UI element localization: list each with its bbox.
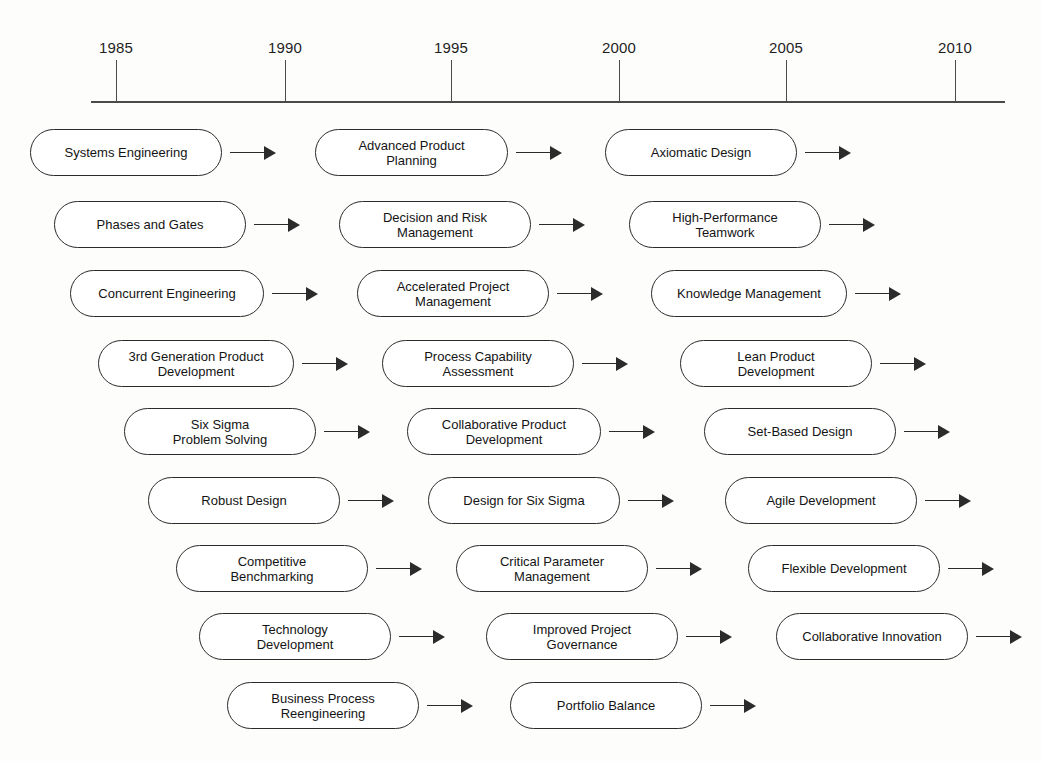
flow-arrow-shaft — [399, 636, 433, 638]
methodology-pill[interactable]: Design for Six Sigma — [428, 477, 620, 524]
flow-arrow-head — [863, 218, 875, 232]
flow-arrow-icon — [656, 562, 702, 576]
flow-arrow-shaft — [557, 293, 591, 295]
flow-arrow-head — [959, 494, 971, 508]
methodology-pill-label: 3rd Generation Product Development — [128, 349, 263, 379]
methodology-pill[interactable]: Critical Parameter Management — [456, 545, 648, 592]
flow-arrow-head — [306, 287, 318, 301]
methodology-pill-label: Robust Design — [201, 493, 286, 508]
methodology-pill[interactable]: Phases and Gates — [54, 201, 246, 248]
methodology-pill[interactable]: Systems Engineering — [30, 129, 222, 176]
flow-arrow-head — [744, 699, 756, 713]
methodology-pill[interactable]: Concurrent Engineering — [70, 270, 264, 317]
methodology-pill-label: Design for Six Sigma — [463, 493, 584, 508]
flow-arrow-head — [889, 287, 901, 301]
methodology-pill[interactable]: Business Process Reengineering — [227, 682, 419, 729]
flow-arrow-icon — [348, 494, 394, 508]
methodology-pill[interactable]: Lean Product Development — [680, 340, 872, 387]
flow-arrow-head — [616, 357, 628, 371]
flow-arrow-icon — [302, 357, 348, 371]
flow-arrow-shaft — [855, 293, 889, 295]
flow-arrow-head — [982, 562, 994, 576]
methodology-pill[interactable]: 3rd Generation Product Development — [98, 340, 294, 387]
methodology-pill[interactable]: Portfolio Balance — [510, 682, 702, 729]
flow-arrow-icon — [855, 287, 901, 301]
axis-tick-1995 — [451, 60, 452, 101]
axis-tick-label: 1995 — [434, 39, 468, 56]
methodology-pill-label: Concurrent Engineering — [98, 286, 235, 301]
methodology-pill[interactable]: Technology Development — [199, 613, 391, 660]
methodology-pill[interactable]: Agile Development — [725, 477, 917, 524]
flow-arrow-icon — [976, 630, 1022, 644]
axis-tick-2010 — [955, 60, 956, 101]
flow-arrow-icon — [254, 218, 300, 232]
flow-arrow-shaft — [348, 500, 382, 502]
flow-arrow-shaft — [880, 363, 914, 365]
flow-arrow-head — [914, 357, 926, 371]
flow-arrow-head — [336, 357, 348, 371]
methodology-pill-label: Knowledge Management — [677, 286, 821, 301]
flow-arrow-head — [690, 562, 702, 576]
methodology-pill[interactable]: Accelerated Project Management — [357, 270, 549, 317]
methodology-pill[interactable]: Set-Based Design — [704, 408, 896, 455]
flow-arrow-shaft — [376, 568, 410, 570]
flow-arrow-icon — [686, 630, 732, 644]
methodology-pill[interactable]: Improved Project Governance — [486, 613, 678, 660]
axis-tick-label: 1985 — [99, 39, 133, 56]
flow-arrow-head — [720, 630, 732, 644]
methodology-pill[interactable]: Collaborative Product Development — [407, 408, 601, 455]
flow-arrow-icon — [427, 699, 473, 713]
flow-arrow-icon — [539, 218, 585, 232]
flow-arrow-shaft — [656, 568, 690, 570]
flow-arrow-icon — [628, 494, 674, 508]
flow-arrow-icon — [399, 630, 445, 644]
timeline-diagram: 198519901995200020052010 Systems Enginee… — [0, 0, 1042, 761]
methodology-pill[interactable]: Robust Design — [148, 477, 340, 524]
methodology-pill[interactable]: Six Sigma Problem Solving — [124, 408, 316, 455]
flow-arrow-head — [550, 146, 562, 160]
axis-tick-label: 2010 — [938, 39, 972, 56]
methodology-pill-label: Collaborative Innovation — [802, 629, 941, 644]
methodology-pill[interactable]: Axiomatic Design — [605, 129, 797, 176]
methodology-pill-label: Advanced Product Planning — [358, 138, 464, 168]
flow-arrow-icon — [272, 287, 318, 301]
flow-arrow-icon — [925, 494, 971, 508]
methodology-pill[interactable]: Knowledge Management — [651, 270, 847, 317]
methodology-pill-label: Set-Based Design — [748, 424, 853, 439]
methodology-pill-label: Competitive Benchmarking — [230, 554, 313, 584]
methodology-pill[interactable]: Process Capability Assessment — [382, 340, 574, 387]
axis-tick-label: 1990 — [268, 39, 302, 56]
methodology-pill-label: Collaborative Product Development — [442, 417, 566, 447]
flow-arrow-head — [643, 425, 655, 439]
methodology-pill[interactable]: Collaborative Innovation — [776, 613, 968, 660]
flow-arrow-head — [433, 630, 445, 644]
methodology-pill[interactable]: Decision and Risk Management — [339, 201, 531, 248]
flow-arrow-head — [288, 218, 300, 232]
flow-arrow-shaft — [272, 293, 306, 295]
methodology-pill-label: Flexible Development — [781, 561, 906, 576]
methodology-pill[interactable]: Competitive Benchmarking — [176, 545, 368, 592]
flow-arrow-shaft — [710, 705, 744, 707]
flow-arrow-icon — [829, 218, 875, 232]
flow-arrow-shaft — [539, 224, 573, 226]
flow-arrow-icon — [710, 699, 756, 713]
flow-arrow-shaft — [427, 705, 461, 707]
flow-arrow-head — [461, 699, 473, 713]
methodology-pill[interactable]: Flexible Development — [748, 545, 940, 592]
methodology-pill[interactable]: Advanced Product Planning — [315, 129, 508, 176]
axis-tick-label: 2005 — [769, 39, 803, 56]
flow-arrow-head — [410, 562, 422, 576]
flow-arrow-shaft — [516, 152, 550, 154]
flow-arrow-head — [662, 494, 674, 508]
flow-arrow-icon — [948, 562, 994, 576]
flow-arrow-icon — [557, 287, 603, 301]
methodology-pill-label: Agile Development — [766, 493, 875, 508]
axis-tick-label: 2000 — [602, 39, 636, 56]
axis-tick-2000 — [619, 60, 620, 101]
flow-arrow-icon — [376, 562, 422, 576]
flow-arrow-shaft — [628, 500, 662, 502]
flow-arrow-head — [1010, 630, 1022, 644]
timeline-axis-line — [91, 101, 1005, 103]
methodology-pill[interactable]: High-Performance Teamwork — [629, 201, 821, 248]
flow-arrow-shaft — [976, 636, 1010, 638]
